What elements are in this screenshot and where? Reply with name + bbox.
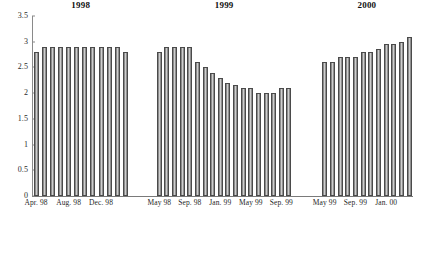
y-tick-label: 2.5 xyxy=(18,63,32,71)
bar-slot xyxy=(255,16,263,196)
bar-slot xyxy=(352,16,360,196)
bar xyxy=(241,88,246,196)
bar-slot xyxy=(398,16,406,196)
bar xyxy=(180,47,185,196)
bar-slot xyxy=(65,16,73,196)
bar xyxy=(330,62,335,196)
bar xyxy=(256,93,261,196)
y-tick-label: 1.5 xyxy=(18,115,32,123)
bar-slot xyxy=(390,16,398,196)
bar-slot xyxy=(105,16,113,196)
bar-slot xyxy=(178,16,186,196)
bars-1999 xyxy=(155,16,292,196)
bar-slot xyxy=(321,16,329,196)
bar xyxy=(353,57,358,196)
bar xyxy=(187,47,192,196)
bar xyxy=(248,88,253,196)
bar-slot xyxy=(171,16,179,196)
bar xyxy=(99,47,104,196)
x-tick-label: May 98 xyxy=(147,199,171,207)
bar xyxy=(391,44,396,196)
bar xyxy=(82,47,87,196)
bar-slot xyxy=(239,16,247,196)
bar-slot xyxy=(56,16,64,196)
bar-chart: 00.511.522.533.5 1998 1999 2000 Apr. 98A… xyxy=(0,0,423,272)
panel-title-2000: 2000 xyxy=(321,0,413,10)
bar-slot xyxy=(121,16,129,196)
bar-slot xyxy=(224,16,232,196)
bar-slot xyxy=(382,16,390,196)
bar xyxy=(90,47,95,196)
panel-1998: 1998 xyxy=(32,16,129,196)
bar-slot xyxy=(277,16,285,196)
bar-slot xyxy=(32,16,40,196)
bar-slot xyxy=(40,16,48,196)
bar xyxy=(42,47,47,196)
x-axis-labels: Apr. 98Aug. 98Dec. 98May 98Sep. 98Jan. 9… xyxy=(32,199,413,213)
bar xyxy=(157,52,162,196)
bar-slot xyxy=(194,16,202,196)
bar xyxy=(66,47,71,196)
bar xyxy=(74,47,79,196)
bar xyxy=(115,47,120,196)
bar xyxy=(322,62,327,196)
bar-slot xyxy=(367,16,375,196)
y-tick-label: 3 xyxy=(24,38,32,46)
bar xyxy=(345,57,350,196)
bar-slot xyxy=(73,16,81,196)
bar xyxy=(58,47,63,196)
x-tick-label: Sep. 98 xyxy=(178,199,201,207)
x-tick-label: Jan. 99 xyxy=(209,199,231,207)
bar xyxy=(50,47,55,196)
bar xyxy=(164,47,169,196)
panel-2000: 2000 xyxy=(321,16,413,196)
bar-slot xyxy=(232,16,240,196)
bar-slot xyxy=(262,16,270,196)
panel-title-1999: 1999 xyxy=(155,0,292,10)
bar xyxy=(233,85,238,196)
bar xyxy=(34,52,39,196)
bar-groups: 1998 1999 2000 xyxy=(32,16,413,196)
bar-slot xyxy=(186,16,194,196)
y-tick-label: 0.5 xyxy=(18,166,32,174)
bar-slot xyxy=(329,16,337,196)
x-axis-line xyxy=(32,196,413,197)
bar xyxy=(195,62,200,196)
bar-slot xyxy=(113,16,121,196)
bar-slot xyxy=(216,16,224,196)
bar-slot xyxy=(247,16,255,196)
panel-title-1998: 1998 xyxy=(32,0,129,10)
bar xyxy=(123,52,128,196)
bar xyxy=(264,93,269,196)
bar-slot xyxy=(405,16,413,196)
bar xyxy=(210,73,215,196)
x-tick-label: May 99 xyxy=(239,199,263,207)
bar-slot xyxy=(359,16,367,196)
bar-slot xyxy=(336,16,344,196)
x-tick-label: Sep. 99 xyxy=(344,199,367,207)
bar-slot xyxy=(344,16,352,196)
bar-slot xyxy=(97,16,105,196)
bar-slot xyxy=(48,16,56,196)
bar xyxy=(203,67,208,196)
bar xyxy=(172,47,177,196)
x-tick-label: Sep. 99 xyxy=(270,199,293,207)
bar xyxy=(271,93,276,196)
bar xyxy=(338,57,343,196)
bars-2000 xyxy=(321,16,413,196)
bar xyxy=(407,37,412,196)
x-tick-label: Aug. 98 xyxy=(56,199,81,207)
bars-1998 xyxy=(32,16,129,196)
bar xyxy=(107,47,112,196)
y-tick-label: 1 xyxy=(24,141,32,149)
bar-slot xyxy=(155,16,163,196)
bar-slot xyxy=(209,16,217,196)
x-tick-label: Jan. 00 xyxy=(375,199,397,207)
bar-slot xyxy=(375,16,383,196)
bar-slot xyxy=(285,16,293,196)
x-tick-label: Dec. 98 xyxy=(89,199,113,207)
bar xyxy=(361,52,366,196)
bar xyxy=(218,78,223,196)
y-tick-label: 2 xyxy=(24,89,32,97)
bar-slot xyxy=(270,16,278,196)
